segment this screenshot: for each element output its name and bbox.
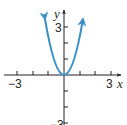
y-max-label: 3 <box>55 21 62 35</box>
x-min-label: −3 <box>8 77 22 91</box>
x-axis-label: x <box>116 76 123 91</box>
x-max-label: 3 <box>106 77 113 91</box>
y-min-label: −3 <box>50 118 64 125</box>
y-axis-label: y <box>52 6 60 21</box>
graph: −3 3 x y 3 −3 <box>0 0 127 125</box>
